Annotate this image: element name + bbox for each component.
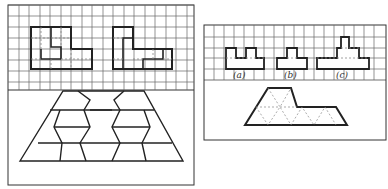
shape-b: [277, 48, 307, 69]
label-a: (a): [233, 70, 246, 80]
shape-a: [226, 48, 264, 69]
shape-c: [317, 37, 369, 69]
left-panel: [8, 5, 194, 185]
right-panel-border: [204, 25, 386, 140]
polyomino-shape-2: [113, 27, 172, 69]
figure-canvas: (a) (b) (c): [0, 0, 388, 189]
label-c: (c): [336, 70, 349, 80]
label-b: (b): [284, 70, 297, 80]
polyiamond-shape: [245, 88, 347, 125]
left-grid: [8, 5, 194, 90]
right-panel: (a) (b) (c): [204, 25, 386, 140]
hexagon-trapezoid-tiling: [20, 91, 183, 161]
